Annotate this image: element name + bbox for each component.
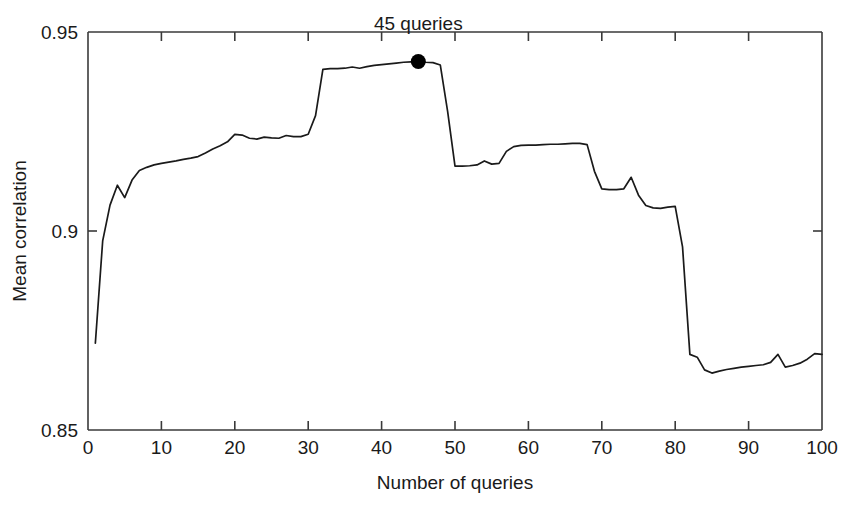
- x-tick-label-90: 90: [738, 437, 759, 458]
- x-tick-label-60: 60: [518, 437, 539, 458]
- y-axis-title: Mean correlation: [9, 160, 30, 302]
- x-tick-label-20: 20: [224, 437, 245, 458]
- data-line: [95, 61, 822, 373]
- y-tick-label-0.85: 0.85: [41, 420, 78, 441]
- y-axis-tick-labels: 0.850.90.95: [41, 22, 78, 441]
- x-tick-label-40: 40: [371, 437, 392, 458]
- y-tick-label-0.9: 0.9: [52, 221, 78, 242]
- x-tick-label-10: 10: [151, 437, 172, 458]
- x-tick-label-30: 30: [298, 437, 319, 458]
- x-axis-title: Number of queries: [377, 472, 533, 493]
- x-tick-label-70: 70: [591, 437, 612, 458]
- x-tick-label-50: 50: [444, 437, 465, 458]
- annotation-label: 45 queries: [374, 13, 463, 34]
- annotation-marker-dot: [411, 54, 426, 69]
- y-tick-label-0.95: 0.95: [41, 22, 78, 43]
- x-tick-label-80: 80: [665, 437, 686, 458]
- plot-frame: [88, 32, 822, 430]
- x-tick-label-100: 100: [806, 437, 838, 458]
- chart-canvas: 0102030405060708090100 0.850.90.95 45 qu…: [0, 0, 867, 510]
- annotation-layer: 45 queries: [374, 13, 463, 69]
- data-series-line: [95, 61, 822, 373]
- chart-figure: 0102030405060708090100 0.850.90.95 45 qu…: [0, 0, 867, 510]
- x-axis-ticks: [161, 32, 748, 430]
- x-axis-tick-labels: 0102030405060708090100: [83, 437, 838, 458]
- x-tick-label-0: 0: [83, 437, 94, 458]
